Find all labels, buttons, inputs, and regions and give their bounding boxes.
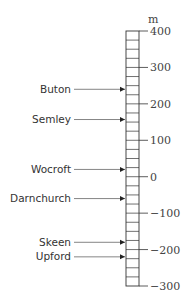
place-label: Upford [36,250,71,262]
place-markers: ButonSemleyWocroftDarnchurchSkeenUpford [10,83,125,263]
place-label: Skeen [39,236,71,248]
tick-label: 0 [150,171,157,184]
tick-label: −300 [150,280,180,293]
place-marker: Skeen [39,236,125,248]
tick-label: 300 [150,61,171,74]
place-marker: Darnchurch [10,192,125,204]
place-label: Darnchurch [10,192,71,204]
place-label: Wocroft [31,163,71,175]
place-marker: Upford [36,250,125,262]
place-marker: Semley [32,113,125,125]
place-label: Buton [40,83,71,95]
tick-label: 400 [150,25,171,38]
tick-label: −200 [150,244,180,257]
tick-label: 200 [150,98,171,111]
scale-column [126,31,139,286]
place-label: Semley [32,113,71,125]
tick-label: −100 [150,207,180,220]
tick-label: 100 [150,134,171,147]
tick-marks: 4003002001000−100−200−300 [139,25,180,293]
place-marker: Buton [40,83,125,95]
place-marker: Wocroft [31,163,125,175]
height-scale-diagram: m 4003002001000−100−200−300 ButonSemleyW… [0,0,186,305]
